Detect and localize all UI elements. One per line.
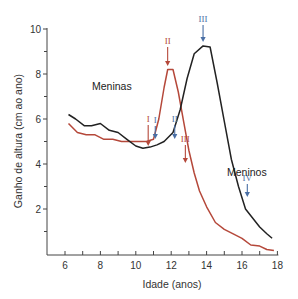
- axes: 246810681012141618: [30, 24, 284, 272]
- stage-label: III: [199, 14, 208, 24]
- stage-label: I: [147, 114, 150, 124]
- x-tick-label: 12: [166, 260, 178, 271]
- x-tick-label: 10: [130, 260, 142, 271]
- x-tick-label: 16: [236, 260, 248, 271]
- series-line-girls: [69, 70, 274, 251]
- series-lines: [69, 46, 274, 251]
- y-tick-label: 6: [35, 114, 41, 125]
- arrow-down-icon: [172, 134, 177, 139]
- arrow-down-icon: [200, 37, 205, 42]
- arrow-down-icon: [146, 141, 151, 146]
- x-tick-label: 18: [272, 260, 284, 271]
- stage-arrow-girls-ii: II: [165, 36, 171, 66]
- stage-arrow-girls-i: I: [146, 114, 151, 146]
- series-label-girls: Meninas: [92, 80, 132, 92]
- x-axis-title: Idade (anos): [143, 278, 202, 290]
- series-label-boys: Meninos: [227, 166, 267, 178]
- stage-arrow-boys-ii: II: [172, 114, 178, 139]
- y-tick-label: 10: [30, 24, 42, 35]
- growth-velocity-chart: 246810681012141618 IIIIIIIIIIIIIV Menina…: [0, 0, 298, 299]
- series-line-boys: [69, 46, 273, 238]
- stage-arrow-boys-iii: III: [199, 14, 208, 42]
- y-axis-title: Ganho de altura (cm ao ano): [12, 74, 24, 208]
- x-tick-label: 6: [62, 260, 68, 271]
- stage-label: II: [165, 36, 171, 46]
- y-tick-label: 4: [35, 159, 41, 170]
- y-tick-label: 2: [35, 204, 41, 215]
- stage-label: II: [172, 114, 178, 124]
- x-tick-label: 14: [201, 260, 213, 271]
- arrow-down-icon: [245, 192, 250, 197]
- stage-label: III: [181, 134, 190, 144]
- stage-label: I: [154, 115, 157, 125]
- arrow-down-icon: [183, 158, 188, 163]
- x-tick-label: 8: [98, 260, 104, 271]
- y-tick-label: 8: [35, 69, 41, 80]
- arrow-down-icon: [165, 61, 170, 66]
